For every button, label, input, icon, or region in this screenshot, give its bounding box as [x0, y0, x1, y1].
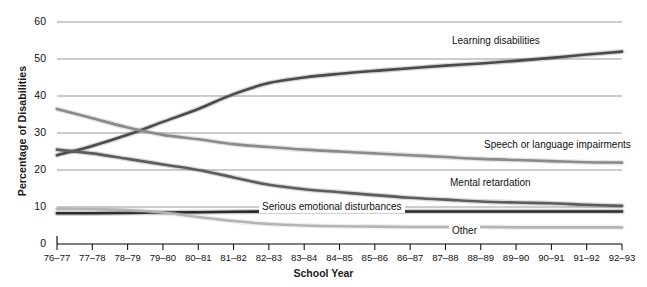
- series-halo-1: [57, 109, 622, 163]
- series-label-other: Other: [449, 225, 480, 237]
- x-tick-label: 88–89: [463, 252, 499, 263]
- x-tick-label: 84–85: [322, 252, 358, 263]
- x-tick-label: 85–86: [357, 252, 393, 263]
- series-label-learning-disabilities: Learning disabilities: [449, 35, 543, 47]
- x-tick-label: 77–78: [74, 252, 110, 263]
- series-label-speech-or-language-impairments: Speech or language impairments: [481, 139, 634, 151]
- x-tick-label: 91–92: [569, 252, 605, 263]
- y-tick-label: 50: [18, 53, 46, 64]
- y-tick-label: 40: [18, 90, 46, 101]
- y-tick-label: 20: [18, 164, 46, 175]
- x-tick-label: 76–77: [39, 252, 75, 263]
- x-tick-label: 89–90: [498, 252, 534, 263]
- x-tick-label: 92–93: [604, 252, 640, 263]
- x-axis-title: School Year: [0, 267, 647, 279]
- series-label-mental-retardation: Mental retardation: [447, 177, 534, 189]
- x-tick-label: 87–88: [427, 252, 463, 263]
- x-tick-label: 86–87: [392, 252, 428, 263]
- y-tick-label: 30: [18, 127, 46, 138]
- y-tick-label: 0: [18, 238, 46, 249]
- x-tick-label: 78–79: [110, 252, 146, 263]
- series-label-serious-emotional-disturbances: Serious emotional disturbances: [259, 201, 405, 213]
- chart-container: Percentage of Disabilities 0102030405060…: [0, 0, 647, 287]
- x-tick-label: 82–83: [251, 252, 287, 263]
- y-tick-label: 60: [18, 16, 46, 27]
- x-tick-label: 79–80: [145, 252, 181, 263]
- x-tick-label: 80–81: [180, 252, 216, 263]
- x-tick-label: 83–84: [286, 252, 322, 263]
- x-tick-label: 90–91: [533, 252, 569, 263]
- series-line-1: [57, 109, 622, 163]
- y-tick-label: 10: [18, 201, 46, 212]
- x-tick-label: 81–82: [216, 252, 252, 263]
